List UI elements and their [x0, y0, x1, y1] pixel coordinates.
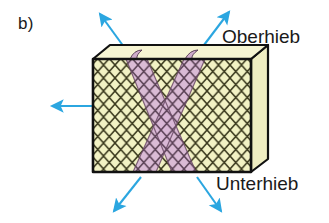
arrow-bottom-left-icon — [114, 177, 141, 211]
block-side-face — [251, 45, 268, 172]
panel-label: b) — [18, 14, 34, 34]
block-front-face — [93, 59, 251, 172]
label-oberhieb: Oberhieb — [222, 26, 300, 48]
label-unterhieb: Unterhieb — [216, 173, 298, 195]
arrow-top-left-icon — [100, 14, 124, 47]
figure-panel-b: b) Oberhieb Unterhieb — [0, 0, 329, 223]
